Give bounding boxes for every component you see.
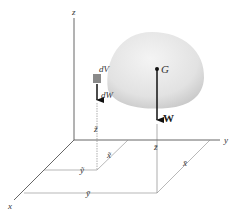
centroid-x-coordinate-label: x̄	[182, 158, 188, 168]
z-axis-label: z	[71, 7, 76, 17]
element-x-coordinate-label: x̃	[106, 150, 112, 160]
volume-element-icon	[93, 74, 101, 83]
x-axis-label: x	[7, 201, 12, 211]
element-weight-label: dW	[101, 90, 115, 100]
centroid-label: G	[161, 63, 169, 75]
y-axis-label: y	[223, 135, 228, 145]
element-z-coordinate-label: z̃	[93, 124, 98, 134]
center-of-gravity-diagram: z y x dV dW z̃ x̃ ỹ G W z̄ x̄ ȳ	[0, 0, 244, 220]
centroid-z-coordinate-label: z̄	[153, 142, 158, 152]
element-volume-label: dV	[99, 64, 111, 74]
element-x-projection	[97, 140, 128, 170]
total-weight-label: W	[163, 112, 174, 124]
